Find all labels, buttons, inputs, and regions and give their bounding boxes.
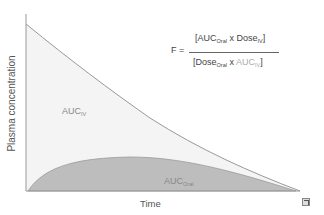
auc-oral-label: AUCOral [164,176,193,187]
formula-numerator: [AUCOral x DoseIV] [195,33,265,44]
formula-denominator: [DoseOral x AUCIV] [193,57,263,68]
auc-iv-label: AUCIV [62,106,86,117]
y-axis-label: Plasma concentration [2,28,20,178]
expand-icon[interactable] [302,198,310,206]
formula-lhs: F = [171,45,184,55]
fraction-bar [189,52,279,53]
auc-diagram [0,0,324,215]
x-axis-label: Time [140,198,161,209]
